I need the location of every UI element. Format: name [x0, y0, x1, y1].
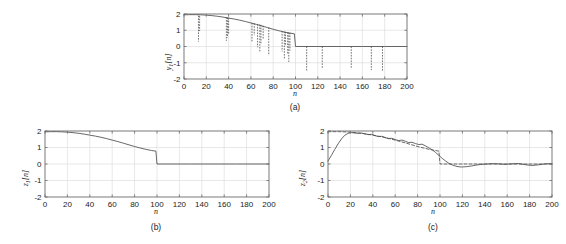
x-tick-label: 140 — [333, 82, 347, 91]
figure-container: 020406080100120140160180200-2-1012 y1[n]… — [0, 0, 566, 244]
x-tick-label: 20 — [202, 82, 211, 91]
x-tick-label: 40 — [85, 200, 94, 209]
y-tick-label: -2 — [317, 193, 325, 202]
y-tick-label: 1 — [37, 143, 42, 152]
y-tick-label: -1 — [34, 176, 42, 185]
y-tick-label: 0 — [176, 42, 181, 51]
x-tick-label: 0 — [182, 82, 187, 91]
y-tick-label: 0 — [320, 160, 325, 169]
x-tick-label: 0 — [43, 200, 48, 209]
plot-panel-a: 020406080100120140160180200-2-1012 — [0, 0, 566, 118]
plot-c-caption: (c) — [393, 222, 473, 232]
plot-b-y-axis-label: z1[n] — [21, 140, 32, 186]
y-tick-label: 1 — [176, 26, 181, 35]
y-tick-label: -2 — [173, 75, 181, 84]
y-tick-label: 2 — [37, 127, 42, 136]
y-label-text: z1[n] — [21, 170, 30, 186]
x-tick-label: 180 — [523, 200, 537, 209]
plot-a-x-axis-label: n — [255, 89, 335, 98]
plot-c-x-axis-label: n — [393, 207, 473, 216]
y-tick-label: -1 — [317, 176, 325, 185]
x-tick-label: 200 — [400, 82, 414, 91]
plot-area: 020406080100120140160180200-2-1012 — [173, 10, 414, 91]
x-tick-label: 160 — [218, 200, 232, 209]
x-tick-label: 200 — [262, 200, 276, 209]
plot-area: 020406080100120140160180200-2-1012 — [317, 127, 559, 209]
plot-b-x-axis-label: n — [116, 207, 196, 216]
y-tick-label: 1 — [320, 143, 325, 152]
plot-c-y-axis-label: z2[n] — [298, 140, 309, 186]
y-label-text: z2[n] — [298, 170, 307, 186]
x-tick-label: 180 — [378, 82, 392, 91]
plot-a-caption: (a) — [255, 102, 335, 112]
x-tick-label: 40 — [368, 200, 377, 209]
x-tick-label: 20 — [63, 200, 72, 209]
x-tick-label: 20 — [346, 200, 355, 209]
y-tick-label: -2 — [34, 193, 42, 202]
y-tick-label: 2 — [176, 10, 181, 19]
x-tick-label: 140 — [478, 200, 492, 209]
x-tick-label: 180 — [240, 200, 254, 209]
y-tick-label: 0 — [37, 160, 42, 169]
x-tick-label: 140 — [195, 200, 209, 209]
y-label-text: y1[n] — [164, 54, 173, 71]
x-tick-label: 0 — [326, 200, 331, 209]
x-tick-label: 160 — [356, 82, 370, 91]
x-tick-label: 40 — [224, 82, 233, 91]
plot-b-caption: (b) — [116, 222, 196, 232]
plot-area: 020406080100120140160180200-2-1012 — [34, 127, 276, 209]
plot-a-y-axis-label: y1[n] — [164, 24, 175, 70]
y-tick-label: 2 — [320, 127, 325, 136]
x-tick-label: 200 — [545, 200, 559, 209]
plot-a-svg: 020406080100120140160180200-2-1012 — [0, 0, 566, 118]
y-tick-label: -1 — [173, 59, 181, 68]
x-tick-label: 160 — [501, 200, 515, 209]
